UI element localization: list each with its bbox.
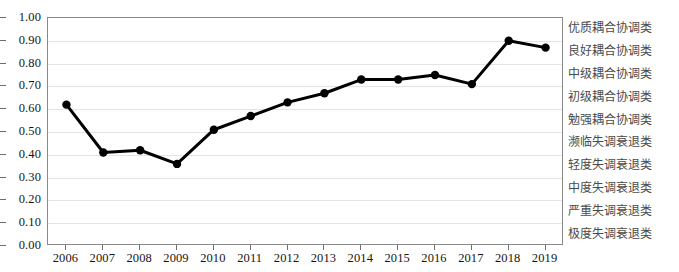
x-tick-mark (65, 245, 66, 250)
x-tick-mark (545, 245, 546, 250)
x-tick-mark (397, 245, 398, 250)
data-point-marker (541, 43, 549, 51)
x-tick-mark (323, 245, 324, 250)
y-tick-label: 0.50 (19, 125, 41, 137)
y-tick-mark (0, 222, 6, 223)
category-band-label: 中度失调衰退类 (568, 182, 652, 195)
x-tick-label: 2014 (348, 251, 373, 265)
y-tick-label: 0.20 (19, 193, 41, 205)
y-tick-mark (0, 17, 6, 18)
y-tick-mark (0, 199, 6, 200)
y-tick-label: 0.70 (19, 79, 41, 91)
x-tick-label: 2008 (126, 251, 151, 265)
y-tick-mark (0, 245, 6, 246)
data-point-marker (62, 100, 70, 108)
y-tick-mark (0, 177, 6, 178)
category-band-label: 优质耦合协调类 (568, 22, 652, 35)
y-tick-mark (0, 40, 6, 41)
y-tick-mark (0, 131, 6, 132)
x-tick-mark (360, 245, 361, 250)
x-tick-label: 2006 (53, 251, 78, 265)
x-tick-label: 2009 (163, 251, 188, 265)
x-tick-label: 2007 (90, 251, 115, 265)
x-tick-label: 2012 (274, 251, 299, 265)
data-point-marker (99, 148, 107, 156)
x-tick-label: 2010 (200, 251, 225, 265)
data-point-marker (320, 89, 328, 97)
y-tick-mark (0, 63, 6, 64)
series-line (66, 41, 545, 164)
category-band-label: 初级耦合协调类 (568, 90, 652, 103)
y-axis-tick-marks (0, 17, 6, 245)
category-band-label: 严重失调衰退类 (568, 204, 652, 217)
category-band-label: 中级耦合协调类 (568, 68, 652, 81)
data-point-marker (173, 160, 181, 168)
data-point-marker (468, 80, 476, 88)
x-tick-mark (508, 245, 509, 250)
y-tick-label: 0.10 (19, 216, 41, 228)
y-tick-label: 0.90 (19, 34, 41, 46)
category-band-labels: 优质耦合协调类良好耦合协调类中级耦合协调类初级耦合协调类勉强耦合协调类濒临失调衰… (568, 17, 679, 245)
category-band-label: 极度失调衰退类 (568, 227, 652, 240)
x-tick-mark (434, 245, 435, 250)
plot-area (47, 17, 563, 245)
x-tick-label: 2011 (237, 251, 262, 265)
x-tick-mark (287, 245, 288, 250)
data-point-marker (283, 98, 291, 106)
x-tick-mark (471, 245, 472, 250)
x-tick-mark (213, 245, 214, 250)
y-tick-label: 0.00 (19, 239, 41, 251)
y-tick-mark (0, 85, 6, 86)
y-tick-mark (0, 108, 6, 109)
category-band-label: 勉强耦合协调类 (568, 113, 652, 126)
y-tick-label: 1.00 (19, 11, 41, 23)
category-band-label: 良好耦合协调类 (568, 45, 652, 58)
x-tick-mark (250, 245, 251, 250)
x-tick-label: 2015 (384, 251, 409, 265)
y-tick-label: 0.30 (19, 171, 41, 183)
data-series-layer (48, 18, 564, 246)
series-markers (62, 37, 550, 169)
data-point-marker (357, 75, 365, 83)
x-tick-mark (102, 245, 103, 250)
data-point-marker (136, 146, 144, 154)
category-band-label: 轻度失调衰退类 (568, 159, 652, 172)
y-tick-label: 0.80 (19, 57, 41, 69)
x-tick-label: 2018 (495, 251, 520, 265)
x-tick-label: 2017 (458, 251, 483, 265)
x-tick-label: 2019 (532, 251, 557, 265)
y-tick-label: 0.60 (19, 102, 41, 114)
x-axis: 2006200720082009201020112012201320142015… (47, 251, 563, 271)
y-tick-label: 0.40 (19, 148, 41, 160)
data-point-marker (210, 126, 218, 134)
y-tick-mark (0, 154, 6, 155)
x-tick-mark (176, 245, 177, 250)
data-point-marker (505, 37, 513, 45)
x-tick-mark (139, 245, 140, 250)
x-tick-label: 2016 (421, 251, 446, 265)
x-tick-label: 2013 (311, 251, 336, 265)
data-point-marker (247, 112, 255, 120)
y-axis: 1.000.900.800.700.600.500.400.300.200.10… (0, 0, 44, 272)
data-point-marker (394, 75, 402, 83)
data-point-marker (431, 71, 439, 79)
line-chart-figure: 1.000.900.800.700.600.500.400.300.200.10… (0, 0, 679, 272)
category-band-label: 濒临失调衰退类 (568, 136, 652, 149)
